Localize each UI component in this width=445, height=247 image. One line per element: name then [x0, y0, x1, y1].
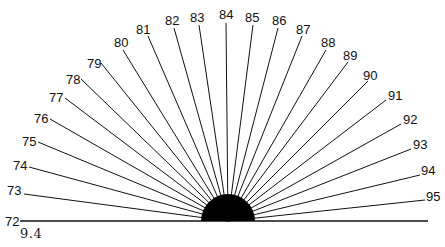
ray-line: [123, 50, 228, 221]
ray-line: [228, 25, 253, 221]
ray-line: [101, 63, 228, 221]
ray-line: [228, 200, 425, 221]
ray-label: 77: [49, 90, 63, 105]
ray-label: 95: [426, 189, 440, 204]
ray-line: [199, 25, 228, 221]
ray-label: 86: [272, 13, 286, 28]
ray-line: [228, 81, 368, 221]
ray-label: 85: [245, 10, 259, 25]
ray-label: 83: [190, 10, 204, 25]
ray-label: 76: [34, 111, 48, 126]
ray-label: 81: [136, 22, 150, 37]
ray-line: [174, 28, 228, 221]
ray-label: 80: [114, 35, 128, 50]
ray-label: 93: [413, 137, 427, 152]
ray-label: 73: [7, 183, 21, 198]
ray-line: [81, 79, 228, 221]
ray-label: 84: [219, 7, 233, 22]
ray-line: [226, 23, 228, 221]
ray-label: 72: [5, 214, 19, 229]
ray-label: 90: [363, 68, 377, 83]
ray-label: 89: [343, 48, 357, 63]
sunburst-diagram: 7273747576777879808182838485868788899091…: [0, 0, 445, 247]
ray-line: [228, 124, 401, 221]
ray-line: [228, 175, 420, 221]
ray-line: [228, 28, 278, 221]
ray-label: 75: [22, 134, 36, 149]
figure-caption: 9.4: [20, 226, 42, 241]
ray-label: 88: [321, 35, 335, 50]
ray-label: 87: [296, 22, 310, 37]
ray-label: 92: [403, 112, 417, 127]
ray-label: 74: [13, 158, 27, 173]
ray-label: 78: [66, 72, 80, 87]
ray-line: [228, 50, 326, 221]
ray-label: 91: [388, 88, 402, 103]
ray-label: 82: [165, 13, 179, 28]
ray-label: 94: [421, 163, 435, 178]
ray-lines: [24, 23, 425, 221]
ray-line: [29, 167, 228, 221]
ray-label: 79: [87, 56, 101, 71]
ray-line: [50, 119, 228, 221]
